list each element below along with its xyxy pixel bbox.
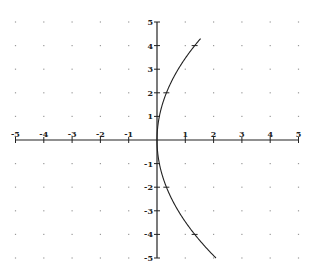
- x-tick-label: 4: [267, 129, 273, 139]
- grid-dot: [128, 69, 129, 70]
- grid-dot: [241, 116, 242, 117]
- grid-dot: [15, 257, 16, 258]
- grid-dot: [241, 187, 242, 188]
- x-tick-label: -5: [11, 129, 20, 139]
- grid-dot: [100, 92, 101, 93]
- x-axis-ticks: -5-4-3-2-112345: [11, 129, 301, 143]
- grid-dot: [298, 21, 299, 22]
- grid-dot: [241, 257, 242, 258]
- x-tick-label: 5: [296, 129, 302, 139]
- grid-dot: [128, 163, 129, 164]
- grid-dot: [185, 69, 186, 70]
- grid-dot: [43, 45, 44, 46]
- grid-dot: [72, 92, 73, 93]
- grid-dot: [100, 45, 101, 46]
- grid-dot: [15, 210, 16, 211]
- grid-dot: [270, 116, 271, 117]
- grid-dot: [43, 257, 44, 258]
- grid-dot: [298, 92, 299, 93]
- y-tick-label: -5: [144, 253, 153, 263]
- grid-dot: [128, 257, 129, 258]
- grid-dot: [213, 187, 214, 188]
- y-tick-label: -4: [144, 229, 153, 239]
- grid-dot: [100, 116, 101, 117]
- grid-dot: [298, 163, 299, 164]
- grid-dot: [185, 257, 186, 258]
- grid-dot: [185, 45, 186, 46]
- grid-dot: [270, 92, 271, 93]
- grid-dot: [43, 187, 44, 188]
- grid-dot: [15, 116, 16, 117]
- grid-dot: [241, 92, 242, 93]
- grid-dot: [100, 163, 101, 164]
- grid-dot: [241, 45, 242, 46]
- y-tick-label: -2: [144, 182, 153, 192]
- grid-dot: [241, 69, 242, 70]
- grid-dot: [270, 234, 271, 235]
- grid-dot: [15, 234, 16, 235]
- grid-dot: [213, 257, 214, 258]
- grid-dot: [72, 116, 73, 117]
- y-tick-label: 4: [147, 41, 153, 51]
- grid-dot: [72, 257, 73, 258]
- grid-dot: [43, 210, 44, 211]
- grid-dot: [298, 187, 299, 188]
- grid-dot: [213, 210, 214, 211]
- grid-dot: [185, 163, 186, 164]
- grid-dot: [185, 210, 186, 211]
- grid-dot: [72, 45, 73, 46]
- grid-dot: [270, 187, 271, 188]
- grid-dot: [100, 210, 101, 211]
- grid-dot: [213, 234, 214, 235]
- grid-dot: [298, 45, 299, 46]
- grid-dot: [72, 210, 73, 211]
- grid-dot: [72, 187, 73, 188]
- grid-dot: [15, 92, 16, 93]
- grid-dot: [100, 21, 101, 22]
- grid-dot: [213, 45, 214, 46]
- grid-dot: [15, 163, 16, 164]
- grid-dot: [43, 234, 44, 235]
- grid-dot: [298, 210, 299, 211]
- grid-dot: [128, 45, 129, 46]
- grid-dot: [185, 234, 186, 235]
- y-tick-label: 2: [147, 88, 153, 98]
- grid-dot: [298, 69, 299, 70]
- grid-dot: [128, 210, 129, 211]
- grid-dot: [128, 116, 129, 117]
- grid-dot: [43, 92, 44, 93]
- grid-dot: [128, 92, 129, 93]
- grid-dot: [128, 234, 129, 235]
- grid-dot: [241, 210, 242, 211]
- grid-dot: [72, 163, 73, 164]
- grid-dot: [213, 163, 214, 164]
- grid-dot: [270, 257, 271, 258]
- y-tick-label: 1: [147, 111, 153, 121]
- grid-dot: [185, 92, 186, 93]
- grid-dot: [15, 69, 16, 70]
- y-tick-label: 3: [147, 64, 153, 74]
- grid-dot: [298, 116, 299, 117]
- x-tick-label: -1: [124, 129, 133, 139]
- grid-dot: [100, 257, 101, 258]
- parabola-chart: -5-4-3-2-112345 -5-4-3-2-112345: [0, 0, 309, 274]
- grid-dot: [100, 187, 101, 188]
- grid-dot: [270, 45, 271, 46]
- grid-dot: [241, 163, 242, 164]
- grid-dot: [298, 257, 299, 258]
- x-tick-label: 2: [211, 129, 217, 139]
- grid-dot: [15, 45, 16, 46]
- grid-dot: [213, 116, 214, 117]
- grid-dot: [270, 163, 271, 164]
- grid-dot: [128, 21, 129, 22]
- grid-dot: [241, 21, 242, 22]
- grid-dot: [213, 92, 214, 93]
- x-tick-label: 3: [239, 129, 245, 139]
- grid-dot: [72, 21, 73, 22]
- grid-dot: [15, 187, 16, 188]
- y-tick-label: -1: [144, 159, 153, 169]
- x-tick-label: -3: [68, 129, 77, 139]
- grid-dot: [185, 187, 186, 188]
- grid-dot: [15, 21, 16, 22]
- grid-dot: [270, 210, 271, 211]
